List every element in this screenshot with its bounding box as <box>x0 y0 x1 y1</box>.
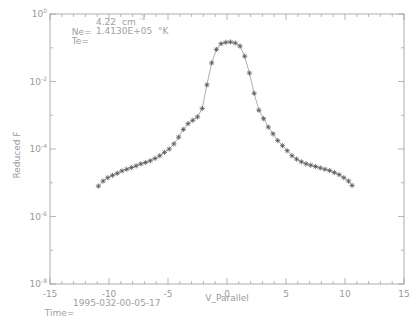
asterisk-marker <box>185 121 190 126</box>
asterisk-marker <box>167 146 172 151</box>
asterisk-marker <box>176 135 181 140</box>
y-tick-label: 10-4 <box>30 142 48 154</box>
te-value: 1.4130E+05 <box>96 26 152 36</box>
asterisk-marker <box>285 148 290 153</box>
asterisk-marker <box>261 116 266 121</box>
asterisk-marker <box>341 175 346 180</box>
te-label: Te= <box>72 36 89 46</box>
te-annotation: Te= 1.4130E+05 °K <box>66 26 89 66</box>
asterisk-marker <box>148 158 153 163</box>
y-tick-label: 10-6 <box>30 210 48 222</box>
asterisk-marker <box>138 161 143 166</box>
y-tick-label: 10-2 <box>30 75 48 87</box>
asterisk-marker <box>294 157 299 162</box>
asterisk-marker <box>349 183 354 188</box>
asterisk-marker <box>252 91 257 96</box>
asterisk-marker <box>124 167 129 172</box>
asterisk-marker <box>327 168 332 173</box>
asterisk-marker <box>171 141 176 146</box>
ne-exponent: -3 <box>139 13 145 23</box>
x-axis-label: V_Parallel <box>205 293 248 303</box>
asterisk-marker <box>223 40 228 45</box>
time-label: Time= <box>45 308 75 318</box>
y-axis-label: Reduced F <box>12 131 22 178</box>
asterisk-marker <box>237 43 242 48</box>
x-tick-label: 5 <box>283 289 289 299</box>
y-tick-label: 100 <box>32 7 47 19</box>
asterisk-marker <box>105 175 110 180</box>
asterisk-marker <box>313 164 318 169</box>
asterisk-marker <box>256 108 261 113</box>
te-unit: °K <box>158 26 168 36</box>
asterisk-marker <box>190 118 195 123</box>
asterisk-marker <box>337 172 342 177</box>
asterisk-marker <box>162 150 167 155</box>
asterisk-marker <box>152 156 157 161</box>
asterisk-marker <box>275 138 280 143</box>
x-tick-label: 15 <box>398 289 409 299</box>
asterisk-marker <box>247 70 252 75</box>
plot-frame <box>50 14 404 284</box>
asterisk-marker <box>318 165 323 170</box>
asterisk-marker <box>299 159 304 164</box>
asterisk-marker <box>270 131 275 136</box>
x-tick-label: -5 <box>164 289 173 299</box>
asterisk-marker <box>195 114 200 119</box>
asterisk-marker <box>101 178 106 183</box>
time-annotation: Time= 1995-032-00-05-17 <box>39 298 74 320</box>
asterisk-marker <box>266 124 271 129</box>
x-tick-label: 10 <box>339 289 351 299</box>
asterisk-marker <box>129 165 134 170</box>
asterisk-marker <box>204 82 209 87</box>
asterisk-marker <box>143 160 148 165</box>
asterisk-marker <box>308 163 313 168</box>
asterisk-marker <box>303 161 308 166</box>
asterisk-marker <box>119 168 124 173</box>
y-tick-label: 10-8 <box>30 277 48 289</box>
asterisk-marker <box>289 153 294 158</box>
asterisk-marker <box>110 173 115 178</box>
asterisk-marker <box>228 39 233 44</box>
time-value: 1995-032-00-05-17 <box>73 298 160 308</box>
asterisk-marker <box>322 167 327 172</box>
asterisk-marker <box>332 170 337 175</box>
asterisk-marker <box>115 171 120 176</box>
asterisk-marker <box>214 47 219 52</box>
asterisk-marker <box>242 54 247 59</box>
asterisk-marker <box>134 163 139 168</box>
asterisk-marker <box>209 60 214 65</box>
axis-ticks <box>50 14 404 284</box>
asterisk-marker <box>219 41 224 46</box>
asterisk-marker <box>233 40 238 45</box>
asterisk-marker <box>157 153 162 158</box>
asterisk-marker <box>200 106 205 111</box>
